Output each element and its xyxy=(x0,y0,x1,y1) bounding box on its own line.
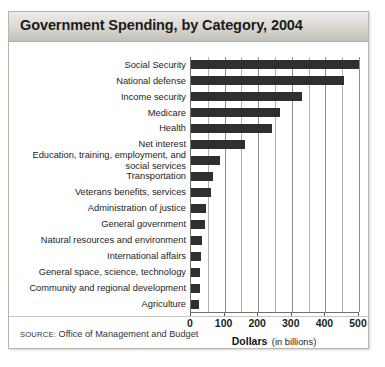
category-label: Veterans benefits, services xyxy=(75,187,186,198)
x-axis-tick-label: 500 xyxy=(349,317,367,329)
category-label: Income security xyxy=(121,92,186,103)
bar xyxy=(191,300,199,309)
bar xyxy=(191,284,200,293)
category-label: International affairs xyxy=(107,251,186,262)
chart-figure: Government Spending, by Category, 2004 S… xyxy=(8,11,369,349)
source-text: Office of Management and Budget xyxy=(59,329,199,339)
source-label: SOURCE: xyxy=(20,330,56,339)
source-divider xyxy=(9,316,368,317)
category-label: Net interest xyxy=(138,139,186,150)
gridline xyxy=(325,57,326,312)
category-label: Social Security xyxy=(125,60,187,71)
category-label: Medicare xyxy=(148,108,186,119)
category-axis-labels: Social SecurityNational defenseIncome se… xyxy=(9,57,189,312)
category-label: Natural resources and environment xyxy=(41,235,186,246)
category-label: Education, training, employment, and soc… xyxy=(14,150,186,171)
x-axis-tick-label: 0 xyxy=(187,317,193,329)
x-axis-title-units: (in billions) xyxy=(272,337,316,347)
bar xyxy=(191,252,201,261)
x-axis-title-main: Dollars xyxy=(232,335,268,347)
bar xyxy=(191,60,359,69)
x-axis-tick-label: 100 xyxy=(215,317,233,329)
category-label: General space, science, technology xyxy=(39,267,186,278)
bar xyxy=(191,236,202,245)
category-label: Health xyxy=(159,123,186,134)
bar xyxy=(191,172,213,181)
category-label: National defense xyxy=(116,76,186,87)
plot-area-wrapper: Social SecurityNational defenseIncome se… xyxy=(9,42,368,348)
bar xyxy=(191,124,272,133)
category-label: Community and regional development xyxy=(29,283,186,294)
gridline xyxy=(359,57,360,312)
x-axis-tick-label: 400 xyxy=(316,317,334,329)
bar xyxy=(191,156,220,165)
bar xyxy=(191,140,245,149)
bar xyxy=(191,220,205,229)
bar xyxy=(191,204,206,213)
category-label: Administration of justice xyxy=(88,203,186,214)
gridline xyxy=(309,57,310,312)
bar xyxy=(191,108,280,117)
bar xyxy=(191,268,200,277)
category-label: Transportation xyxy=(126,171,186,182)
chart-title-bar: Government Spending, by Category, 2004 xyxy=(9,12,368,42)
page-title: Government Spending, by Category, 2004 xyxy=(20,17,303,33)
plot-area xyxy=(190,57,359,313)
category-label: Agriculture xyxy=(142,299,186,310)
bar xyxy=(191,92,302,101)
source-note: SOURCE: Office of Management and Budget xyxy=(20,329,198,339)
gridline xyxy=(342,57,343,312)
bar xyxy=(191,76,344,85)
x-axis-tick-label: 300 xyxy=(282,317,300,329)
x-axis-title: Dollars (in billions) xyxy=(190,331,358,349)
bar xyxy=(191,188,211,197)
x-axis-tick-label: 200 xyxy=(248,317,266,329)
category-label: General government xyxy=(101,219,186,230)
